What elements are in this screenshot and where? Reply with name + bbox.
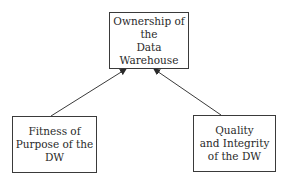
node-fitness-of-purpose: Fitness of Purpose of the DW <box>12 116 97 173</box>
node-label: Quality and Integrity of the DW <box>200 124 270 163</box>
arrow-left-to-top <box>51 69 126 116</box>
node-ownership-of-data-warehouse: Ownership of the Data Warehouse <box>109 12 189 69</box>
node-quality-and-integrity: Quality and Integrity of the DW <box>193 115 276 172</box>
diagram-canvas: Ownership of the Data Warehouse Fitness … <box>0 0 290 183</box>
node-label: Fitness of Purpose of the DW <box>16 125 94 164</box>
arrow-right-to-top <box>154 69 221 115</box>
node-label: Ownership of the Data Warehouse <box>110 15 188 67</box>
